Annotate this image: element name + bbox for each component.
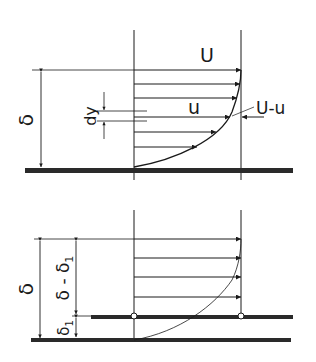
wall-lower: [31, 338, 291, 342]
boundary-layer-diagram: U u U-u δ dy δ δ - δ1 δ1: [0, 0, 316, 362]
svg-text:δ1: δ1: [55, 320, 75, 336]
label-velocity-deficit: U-u: [256, 98, 285, 118]
label-dy: dy: [81, 106, 100, 126]
top-panel: [25, 30, 293, 180]
displaced-wall: [91, 315, 293, 319]
disp-sub: 1: [64, 320, 75, 326]
label-delta-lower: δ: [14, 283, 38, 295]
outer-sub: 1: [63, 256, 76, 263]
hinge-left: [131, 313, 137, 319]
label-delta-top: δ: [14, 114, 38, 126]
profile-curve-lower: [134, 239, 241, 340]
svg-text:δ - δ1: δ - δ1: [53, 256, 76, 301]
label-free-stream-U: U: [200, 44, 214, 66]
label-displacement-thickness: δ1: [55, 320, 75, 336]
hinge-right: [238, 313, 244, 319]
velocity-profile-curve: [134, 70, 241, 167]
label-local-velocity-u: u: [188, 96, 200, 118]
disp-main: δ: [55, 327, 73, 336]
outer-main: δ - δ: [53, 263, 73, 301]
deficit-leader: [232, 107, 254, 116]
label-outer-thickness: δ - δ1: [53, 256, 76, 301]
wall: [25, 168, 293, 173]
